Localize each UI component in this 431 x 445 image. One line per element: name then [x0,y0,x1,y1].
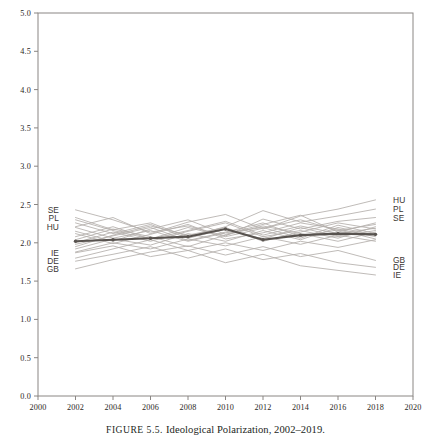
figure-caption: FIGURE 5.5.Ideological Polarization, 200… [0,424,431,435]
y-tick-label: 5.0 [20,9,31,18]
series-label-ie: IE [393,270,401,280]
y-tick-label: 3.0 [20,162,31,171]
series-point-avg [74,240,77,243]
y-axis-ticks: 0.00.51.01.52.02.53.03.54.04.55.0 [20,9,38,401]
series-label-se: SE [393,213,405,223]
chart-plot: 0.00.51.01.52.02.53.03.54.04.55.0 200020… [0,0,431,445]
x-tick-label: 2010 [217,403,234,412]
y-tick-label: 2.5 [20,201,31,210]
figure-caption-text: Ideological Polarization, 2002–2019. [163,424,325,435]
y-tick-label: 0.5 [20,354,31,363]
series-label-gb: GB [47,264,60,274]
x-tick-label: 2014 [292,403,309,412]
x-axis-ticks: 2000200220042006200820102012201420162018… [30,396,422,412]
series-point-avg [336,232,339,235]
y-tick-label: 4.5 [20,47,31,56]
y-tick-label: 1.5 [20,277,31,286]
y-tick-label: 3.5 [20,124,31,133]
series-point-avg [111,238,114,241]
x-tick-label: 2006 [142,403,159,412]
x-tick-label: 2018 [367,403,384,412]
series-label-hu: HU [47,222,59,232]
x-tick-label: 2004 [105,403,122,412]
y-tick-label: 4.0 [20,86,31,95]
series-point-avg [299,233,302,236]
x-tick-label: 2016 [330,403,347,412]
series-point-avg [186,235,189,238]
series-point-avg [374,233,377,236]
x-tick-label: 2002 [67,403,84,412]
x-tick-label: 2012 [255,403,272,412]
x-tick-label: 2008 [180,403,197,412]
figure-number: FIGURE 5.5. [106,424,163,435]
series-point-avg [224,227,227,230]
y-tick-label: 2.0 [20,239,31,248]
figure-container: 0.00.51.01.52.02.53.03.54.04.55.0 200020… [0,0,431,445]
series-point-avg [261,238,264,241]
y-tick-label: 1.0 [20,315,31,324]
series-point-avg [149,237,152,240]
x-tick-label: 2020 [405,403,422,412]
y-tick-label: 0.0 [20,392,31,401]
x-tick-label: 2000 [30,403,47,412]
